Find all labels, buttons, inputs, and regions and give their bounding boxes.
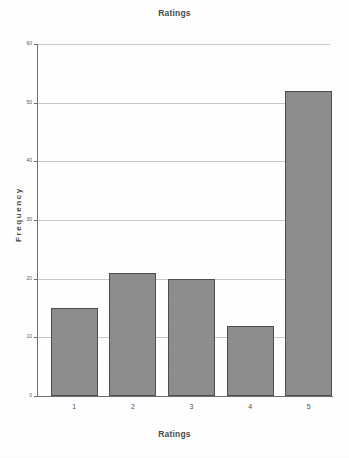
bar xyxy=(227,326,274,396)
bar-chart-figure: Ratings Frequency 0102030405060 12345 Ra… xyxy=(0,0,349,458)
x-tick-label: 2 xyxy=(131,402,135,411)
bar xyxy=(168,279,215,396)
x-tick-label: 3 xyxy=(190,402,194,411)
bars-layer xyxy=(37,44,330,396)
y-axis-line xyxy=(37,44,38,397)
y-tick-label: 30 xyxy=(12,217,32,222)
y-tick-label: 10 xyxy=(12,334,32,339)
y-axis-title: Frequency xyxy=(14,170,23,260)
x-tick-labels: 12345 xyxy=(37,402,330,416)
plot-area: 0102030405060 xyxy=(37,44,330,396)
x-tick-label: 5 xyxy=(307,402,311,411)
y-tick-label: 20 xyxy=(12,276,32,281)
x-tick-label: 4 xyxy=(248,402,252,411)
y-tick-label: 60 xyxy=(12,41,32,46)
x-axis-line xyxy=(37,396,333,397)
y-tick-label: 0 xyxy=(12,393,32,398)
bar xyxy=(51,308,98,396)
bar xyxy=(109,273,156,396)
y-tick-label: 40 xyxy=(12,158,32,163)
x-tick-label: 1 xyxy=(72,402,76,411)
bar xyxy=(285,91,332,396)
chart-title: Ratings xyxy=(0,8,349,18)
y-tick-label: 50 xyxy=(12,100,32,105)
x-axis-title: Ratings xyxy=(0,429,349,439)
